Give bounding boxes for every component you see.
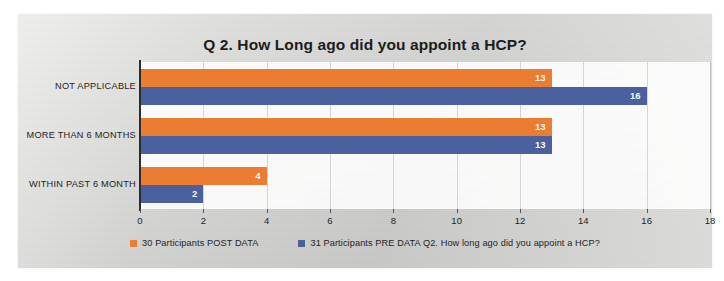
bar-post: 13: [140, 118, 552, 136]
tick-label: 14: [578, 215, 589, 226]
gridline: [583, 62, 584, 209]
plot-area: 1316131342: [140, 62, 710, 209]
tick-mark: [647, 209, 648, 213]
tick-label: 18: [705, 215, 716, 226]
bar-value-label: 13: [535, 122, 552, 132]
tick-mark: [457, 209, 458, 213]
category-label: NOT APPLICABLE: [18, 81, 136, 91]
tick-mark: [583, 209, 584, 213]
category-label: WITHIN PAST 6 MONTH: [18, 179, 136, 189]
tick-label: 4: [264, 215, 269, 226]
tick-mark: [330, 209, 331, 213]
bar-pre: 16: [140, 87, 647, 105]
gridline: [647, 62, 648, 209]
legend-label: 31 Participants PRE DATA Q2. How long ag…: [310, 238, 600, 248]
bar-pre: 13: [140, 136, 552, 154]
chart-title: Q 2. How Long ago did you appoint a HCP?: [18, 36, 712, 54]
tick-label: 0: [137, 215, 142, 226]
bar-value-label: 13: [535, 73, 552, 83]
category-label: MORE THAN 6 MONTHS: [18, 130, 136, 140]
bar-value-label: 16: [630, 91, 647, 101]
bar-value-label: 13: [535, 140, 552, 150]
tick-mark: [393, 209, 394, 213]
tick-mark: [203, 209, 204, 213]
legend-color-swatch: [130, 240, 137, 247]
bar-post: 13: [140, 69, 552, 87]
legend-item[interactable]: 31 Participants PRE DATA Q2. How long ag…: [298, 238, 600, 248]
tick-mark: [140, 209, 141, 213]
bar-value-label: 2: [192, 189, 203, 199]
tick-label: 12: [515, 215, 526, 226]
tick-label: 8: [391, 215, 396, 226]
legend-label: 30 Participants POST DATA: [142, 238, 258, 248]
tick-mark: [710, 209, 711, 213]
tick-label: 2: [201, 215, 206, 226]
legend-item[interactable]: 30 Participants POST DATA: [130, 238, 258, 248]
category-axis-labels: NOT APPLICABLEMORE THAN 6 MONTHSWITHIN P…: [18, 62, 136, 209]
tick-label: 10: [451, 215, 462, 226]
tick-mark: [520, 209, 521, 213]
legend-color-swatch: [298, 240, 305, 247]
tick-label: 16: [641, 215, 652, 226]
gridline: [710, 62, 711, 209]
bar-value-label: 4: [255, 171, 266, 181]
tick-label: 6: [327, 215, 332, 226]
scanned-chart-sheet: Q 2. How Long ago did you appoint a HCP?…: [18, 14, 712, 268]
bar-pre: 2: [140, 185, 203, 203]
chart-legend: 30 Participants POST DATA31 Participants…: [18, 238, 712, 248]
x-axis-ticks: 024681012141618: [140, 209, 712, 229]
bar-post: 4: [140, 167, 267, 185]
tick-mark: [267, 209, 268, 213]
y-axis-line: [139, 60, 141, 211]
